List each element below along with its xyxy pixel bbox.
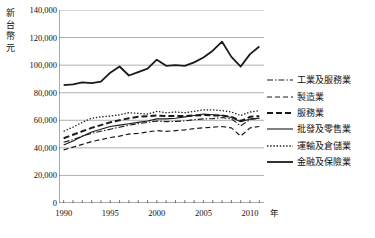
y-tick-label: 120,000	[5, 34, 57, 43]
x-tick-label: 2010	[230, 209, 270, 218]
legend-line-swatch	[267, 75, 293, 85]
chart-legend: 工業及服務業製造業服務業批發及零售業運輸及倉儲業金融及保險業	[267, 72, 375, 170]
legend-label: 運輸及倉儲業	[297, 141, 351, 151]
legend-line-swatch	[267, 92, 293, 102]
series-line	[64, 114, 260, 145]
legend-line-swatch	[267, 108, 293, 118]
y-tick-label: 80,000	[5, 89, 57, 98]
legend-item[interactable]: 批發及零售業	[267, 121, 375, 137]
x-tick-label: 1995	[90, 209, 130, 218]
plot-area	[59, 10, 264, 203]
series-line	[64, 118, 260, 143]
x-tick-label: 2000	[137, 209, 177, 218]
legend-line-swatch	[267, 124, 293, 134]
legend-item[interactable]: 服務業	[267, 105, 375, 121]
x-axis-label: 年	[270, 209, 279, 218]
gridlines	[59, 10, 264, 175]
series-line	[64, 42, 260, 85]
y-tick-label: 100,000	[5, 61, 57, 70]
series-lines	[64, 42, 260, 150]
legend-label: 服務業	[297, 108, 324, 118]
y-tick-label: 20,000	[5, 171, 57, 180]
y-tick-label: 0	[5, 199, 57, 208]
y-tick-label: 60,000	[5, 116, 57, 125]
plot-svg	[59, 10, 264, 203]
legend-line-swatch	[267, 157, 293, 167]
y-tick-label: 140,000	[5, 6, 57, 15]
x-tick-label: 2005	[183, 209, 223, 218]
legend-line-swatch	[267, 141, 293, 151]
legend-item[interactable]: 金融及保險業	[267, 154, 375, 170]
axis-lines	[59, 10, 264, 203]
y-tick-label: 40,000	[5, 144, 57, 153]
legend-label: 製造業	[297, 92, 324, 102]
legend-label: 工業及服務業	[297, 75, 351, 85]
chart-container: 新 台 幣 元 140,000120,000100,00080,00060,00…	[0, 0, 375, 238]
legend-label: 批發及零售業	[297, 124, 351, 134]
legend-item[interactable]: 工業及服務業	[267, 72, 375, 88]
x-tick-label: 1990	[44, 209, 84, 218]
legend-item[interactable]: 製造業	[267, 88, 375, 104]
series-line	[64, 126, 260, 149]
y-axis-ticks: 140,000120,000100,00080,00060,00040,0002…	[0, 0, 57, 238]
legend-label: 金融及保險業	[297, 157, 351, 167]
legend-item[interactable]: 運輸及倉儲業	[267, 138, 375, 154]
